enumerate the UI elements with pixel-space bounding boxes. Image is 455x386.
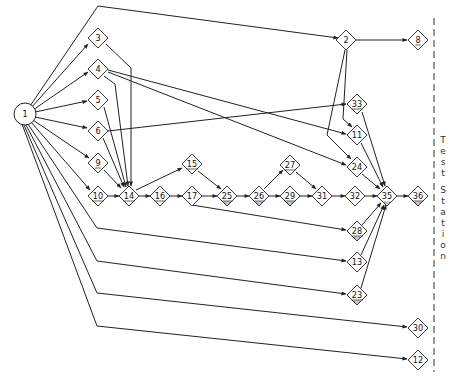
test-station-letter: s xyxy=(441,157,446,167)
node-1: 1 xyxy=(14,103,36,125)
node-label: 9 xyxy=(95,158,100,168)
test-station-letter: e xyxy=(440,146,446,156)
node-label: 36 xyxy=(413,191,423,201)
node-label: 33 xyxy=(352,99,362,109)
node-label: 2 xyxy=(343,35,348,45)
node-label: 30 xyxy=(413,323,423,333)
node-label: 27 xyxy=(285,160,295,170)
node-36: 36 xyxy=(408,186,428,206)
edge-1-to-9 xyxy=(33,120,89,158)
edge-26-to-27 xyxy=(264,170,283,189)
node-16: 16 xyxy=(150,186,170,206)
node-label: 13 xyxy=(352,257,362,267)
node-15: 15 xyxy=(182,154,202,174)
test-station-letter: T xyxy=(439,135,446,145)
nodes-layer: 1345691014151617252627293132353628331124… xyxy=(14,28,428,370)
test-station-letter: S xyxy=(440,185,446,195)
node-label: 23 xyxy=(352,290,362,300)
edge-27-to-31 xyxy=(296,172,316,189)
node-26: 26 xyxy=(249,186,269,206)
node-23: 23 xyxy=(347,285,367,305)
node-label: 5 xyxy=(95,95,100,105)
test-station-letter: t xyxy=(441,218,445,228)
node-2: 2 xyxy=(336,30,356,50)
node-label: 8 xyxy=(415,35,420,45)
node-label: 26 xyxy=(254,191,264,201)
node-label: 10 xyxy=(93,191,103,201)
edge-2-to-11 xyxy=(343,50,352,127)
node-24: 24 xyxy=(347,157,367,177)
node-label: 11 xyxy=(352,130,362,140)
edge-17-to-28 xyxy=(192,205,346,230)
edge-15-to-25 xyxy=(198,171,221,189)
node-28: 28 xyxy=(347,221,367,241)
edge-1-to-4 xyxy=(33,72,88,110)
node-label: 25 xyxy=(222,191,232,201)
node-29: 29 xyxy=(280,186,300,206)
edge-1-to-2 xyxy=(30,6,338,106)
edge-1-to-10 xyxy=(31,122,90,190)
node-11: 11 xyxy=(347,125,367,145)
node-label: 14 xyxy=(124,191,134,201)
edge-28-to-35 xyxy=(362,203,381,225)
node-label: 4 xyxy=(95,64,100,74)
node-6: 6 xyxy=(88,121,108,141)
edge-6-to-33 xyxy=(108,104,346,131)
node-label: 32 xyxy=(350,191,360,201)
node-4: 4 xyxy=(88,59,108,79)
node-13: 13 xyxy=(347,252,367,272)
node-label: 6 xyxy=(95,126,100,136)
node-9: 9 xyxy=(88,153,108,173)
node-label: 24 xyxy=(352,162,362,172)
node-14: 14 xyxy=(119,186,139,206)
test-station-letter: t xyxy=(441,196,445,206)
test-station-letter: o xyxy=(440,240,446,250)
node-label: 15 xyxy=(187,159,197,169)
test-station: TestStation xyxy=(434,18,446,372)
node-31: 31 xyxy=(312,186,332,206)
node-label: 31 xyxy=(317,191,327,201)
node-label: 12 xyxy=(413,355,423,365)
node-25: 25 xyxy=(217,186,237,206)
edge-1-to-3 xyxy=(31,44,88,108)
node-label: 3 xyxy=(95,33,100,43)
node-5: 5 xyxy=(88,90,108,110)
node-33: 33 xyxy=(347,94,367,114)
node-label: 28 xyxy=(352,226,362,236)
node-10: 10 xyxy=(88,186,108,206)
edge-1-to-23 xyxy=(26,125,346,294)
node-32: 32 xyxy=(345,186,365,206)
edge-33-to-35 xyxy=(362,112,385,186)
network-diagram: 1345691014151617252627293132353628331124… xyxy=(0,0,455,386)
test-station-letter: t xyxy=(441,168,445,178)
edge-1-to-12 xyxy=(22,124,407,359)
node-3: 3 xyxy=(88,28,108,48)
node-27: 27 xyxy=(280,155,300,175)
node-label: 1 xyxy=(22,109,27,119)
node-12: 12 xyxy=(408,350,428,370)
node-label: 17 xyxy=(187,191,197,201)
edge-4-to-11 xyxy=(108,70,346,134)
node-label: 16 xyxy=(155,191,165,201)
edges-layer xyxy=(22,6,408,359)
test-station-letter: n xyxy=(440,251,446,261)
test-station-letter: i xyxy=(442,229,445,239)
node-label: 35 xyxy=(382,191,392,201)
test-station-letter: a xyxy=(440,207,446,217)
node-30: 30 xyxy=(408,318,428,338)
node-label: 29 xyxy=(285,191,295,201)
edge-9-to-14 xyxy=(104,170,121,188)
edge-4-to-24 xyxy=(108,72,346,165)
node-17: 17 xyxy=(182,186,202,206)
node-8: 8 xyxy=(408,30,428,50)
